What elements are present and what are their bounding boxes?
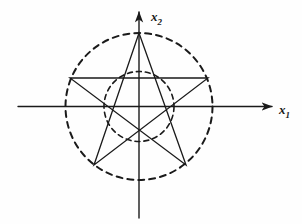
- figure-container: x2 x1: [0, 0, 302, 224]
- figure-drawing: [0, 0, 302, 224]
- y-axis-label-subscript: 2: [158, 17, 163, 27]
- axes-group: [18, 12, 272, 218]
- x-axis-label-subscript: 1: [286, 110, 291, 120]
- y-axis-label: x2: [151, 8, 162, 27]
- x-axis-label: x1: [279, 101, 290, 120]
